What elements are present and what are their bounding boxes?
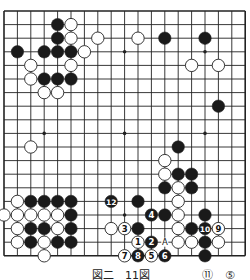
white-stone: [212, 59, 224, 71]
star-point: [203, 50, 207, 54]
black-stone: [65, 209, 77, 221]
black-stone: [159, 209, 171, 221]
black-stone: [132, 222, 144, 234]
black-stone: [65, 222, 77, 234]
black-stone: [38, 222, 50, 234]
black-stone: [25, 236, 37, 248]
white-stone: [51, 222, 63, 234]
black-stone: [199, 236, 211, 248]
point-labels: A: [161, 237, 168, 247]
white-stone: [185, 236, 197, 248]
black-stone: [38, 195, 50, 207]
black-stone: [185, 222, 197, 234]
white-stone: [172, 222, 184, 234]
white-stone: [51, 209, 63, 221]
white-stone: [132, 32, 144, 44]
black-stone: [199, 209, 211, 221]
black-stone: [51, 195, 63, 207]
black-stone: [199, 250, 211, 262]
white-stone: [105, 222, 117, 234]
black-stone: [159, 182, 171, 194]
move-number: 1: [135, 237, 141, 247]
black-stone: [25, 195, 37, 207]
black-stone: [38, 46, 50, 58]
black-stone: 10: [199, 222, 211, 234]
star-point: [42, 132, 46, 136]
white-stone: [25, 73, 37, 85]
white-stone: [159, 154, 171, 166]
black-stone: [51, 236, 63, 248]
black-stone: [51, 18, 63, 30]
black-stone: [11, 46, 23, 58]
black-stone: 12: [105, 195, 117, 207]
white-stone: [212, 236, 224, 248]
move-number: 6: [162, 251, 168, 261]
caption-title: 図二 11図: [92, 269, 150, 280]
white-stone: [38, 250, 50, 262]
white-stone: [11, 236, 23, 248]
white-stone: [25, 59, 37, 71]
white-stone: [25, 209, 37, 221]
black-stone: 2: [145, 236, 157, 248]
move-number: 8: [135, 251, 141, 261]
white-stone: 5: [145, 250, 157, 262]
black-stone: [212, 100, 224, 112]
caption-move-mark-1: ⑪: [202, 270, 213, 280]
caption-move-mark-2: ⑤: [225, 270, 235, 280]
black-stone: 8: [132, 250, 144, 262]
white-stone: [11, 222, 23, 234]
point-label-a: A: [162, 237, 168, 247]
black-stone: [172, 141, 184, 153]
black-stone: [199, 32, 211, 44]
white-stone: 3: [118, 222, 130, 234]
move-number: 10: [200, 225, 210, 234]
white-stone: 9: [212, 222, 224, 234]
black-stone: 6: [159, 250, 171, 262]
white-stone: 1: [132, 236, 144, 248]
white-stone: [51, 86, 63, 98]
white-stone: [92, 32, 104, 44]
black-stone: [65, 46, 77, 58]
move-number: 5: [148, 251, 154, 261]
white-stone: [25, 141, 37, 153]
stones-layer: 1243109127856: [0, 18, 225, 262]
white-stone: [159, 168, 171, 180]
white-stone: [172, 195, 184, 207]
black-stone: [132, 195, 144, 207]
black-stone: [65, 195, 77, 207]
white-stone: [0, 209, 10, 221]
white-stone: [11, 209, 23, 221]
white-stone: [78, 46, 90, 58]
black-stone: [51, 46, 63, 58]
move-number: 7: [122, 251, 128, 261]
black-stone: [185, 182, 197, 194]
white-stone: [11, 195, 23, 207]
white-stone: [65, 32, 77, 44]
move-number: 4: [148, 210, 154, 220]
black-stone: [51, 32, 63, 44]
black-stone: [51, 73, 63, 85]
white-stone: 7: [118, 250, 130, 262]
star-point: [203, 132, 207, 136]
white-stone: [185, 59, 197, 71]
white-stone: [65, 18, 77, 30]
move-number: 12: [106, 198, 116, 207]
black-stone: [25, 222, 37, 234]
diagram-caption: 図二 11図: [92, 270, 150, 280]
black-stone: [38, 73, 50, 85]
move-number: 3: [122, 224, 128, 234]
black-stone: [65, 236, 77, 248]
black-stone: [159, 32, 171, 44]
move-number: 9: [215, 224, 221, 234]
star-point: [123, 50, 127, 54]
go-board-diagram: 1243109127856 A: [0, 0, 250, 280]
black-stone: [185, 168, 197, 180]
move-number: 2: [148, 237, 154, 247]
white-stone: [38, 209, 50, 221]
white-stone: [172, 209, 184, 221]
white-stone: [172, 182, 184, 194]
star-point: [123, 132, 127, 136]
white-stone: [38, 236, 50, 248]
black-stone: 4: [145, 209, 157, 221]
black-stone: [172, 168, 184, 180]
